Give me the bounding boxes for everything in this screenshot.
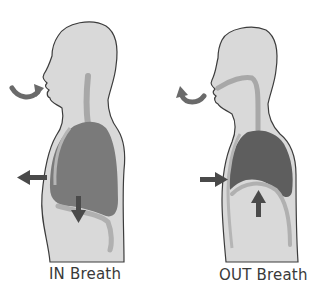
out-breath-figure (176, 27, 298, 262)
air-in-curved-arrow-icon (12, 88, 38, 97)
chest-expand-left-arrow-icon (17, 170, 30, 185)
out-breath-label: OUT Breath (219, 266, 308, 284)
air-out-arrowhead-icon (176, 86, 188, 98)
air-out-curved-arrow-icon (182, 96, 204, 102)
in-breath-label: IN Breath (49, 265, 121, 283)
breathing-diagram (0, 0, 324, 300)
diaphragm-down-arrow-shaft (76, 196, 81, 212)
in-breath-figure (12, 22, 125, 262)
chest-expand-left-arrow-shaft (28, 175, 47, 180)
in-airway (87, 76, 89, 125)
